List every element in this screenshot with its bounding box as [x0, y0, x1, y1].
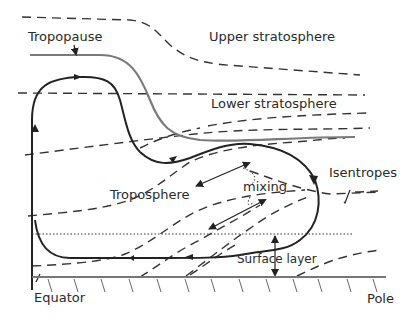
isentrope-2	[18, 93, 365, 95]
isentrope-4	[25, 128, 370, 155]
mixing-arrow-lower	[209, 200, 265, 229]
label-troposphere: Troposphere	[109, 187, 190, 202]
label-lower-stratosphere: Lower stratosphere	[211, 96, 337, 111]
diagram-canvas: Tropopause Upper stratosphere Lower stra…	[0, 0, 408, 320]
isentrope-3	[208, 113, 368, 126]
label-surface-layer: Surface layer	[237, 252, 317, 266]
ground-hatching	[48, 279, 377, 292]
label-tropopause: Tropopause	[27, 29, 102, 44]
mixing-arrow-upper	[196, 163, 249, 186]
isentrope-upper	[22, 17, 360, 75]
label-mixing: mixing	[243, 179, 287, 194]
leftward-arrow-icon	[185, 254, 193, 260]
isentropes-pointer	[344, 190, 350, 203]
label-isentropes: Isentropes	[329, 165, 397, 180]
label-pole: Pole	[367, 291, 394, 306]
mixing-curve-lower	[248, 197, 253, 205]
label-equator: Equator	[34, 290, 86, 305]
isentrope-8b	[190, 245, 235, 275]
rightward-arrow-icon	[74, 74, 82, 80]
label-upper-stratosphere: Upper stratosphere	[209, 29, 335, 44]
leftward-arrow-icon-2	[129, 255, 134, 261]
tropopause-pointer-arrow	[74, 45, 76, 54]
isentrope-5	[28, 138, 345, 216]
